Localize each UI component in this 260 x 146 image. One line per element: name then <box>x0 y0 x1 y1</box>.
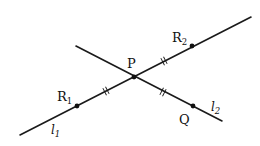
point-q <box>191 104 196 109</box>
label-r1: R1 <box>57 89 72 106</box>
point-r1 <box>75 104 80 109</box>
label-r2: R2 <box>172 30 187 47</box>
diagram-canvas: P R1 R2 Q l1 l2 <box>0 0 260 146</box>
point-p <box>132 75 137 80</box>
point-r2 <box>190 44 195 49</box>
geometry-figure: P R1 R2 Q l1 l2 <box>0 0 260 146</box>
label-l1: l1 <box>51 123 60 139</box>
label-q: Q <box>179 112 190 127</box>
label-l2: l2 <box>211 100 220 116</box>
label-p: P <box>127 56 136 71</box>
line-l2 <box>76 46 222 121</box>
